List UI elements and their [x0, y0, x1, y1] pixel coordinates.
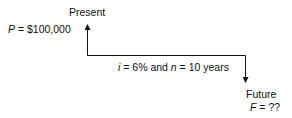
present-var: P: [8, 23, 15, 35]
future-value: F = ??: [250, 101, 280, 113]
future-label: Future: [246, 88, 276, 100]
n-eq: = 10 years: [177, 61, 229, 73]
i-eq: = 6% and: [120, 61, 171, 73]
cash-flow-arrows: [0, 0, 292, 118]
present-eq: = $100,000: [15, 23, 71, 35]
present-value: P = $100,000: [8, 23, 71, 35]
future-eq: = ??: [256, 101, 280, 113]
present-label: Present: [69, 6, 105, 18]
rate-period-label: i = 6% and n = 10 years: [118, 61, 229, 73]
